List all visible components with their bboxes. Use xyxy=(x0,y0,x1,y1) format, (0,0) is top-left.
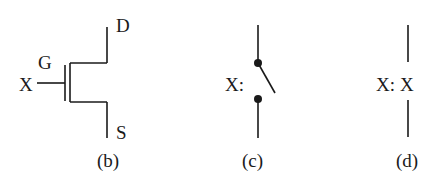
source-label: S xyxy=(116,122,127,143)
caption-d: (d) xyxy=(396,150,418,172)
switch-control-label: X: xyxy=(225,74,244,95)
caption-b: (b) xyxy=(97,150,119,172)
wire-value-label: X xyxy=(400,74,414,95)
panel-c-switch: X: (c) xyxy=(225,25,275,172)
panel-d-wire: X: X (d) xyxy=(376,25,418,172)
switch-models-diagram: D G X S (b) X: (c) X: X (d) xyxy=(0,0,436,185)
drain-label: D xyxy=(116,15,130,36)
gate-label: G xyxy=(38,52,52,73)
caption-c: (c) xyxy=(242,150,263,172)
panel-b-mosfet: D G X S (b) xyxy=(19,15,130,172)
input-label: X xyxy=(19,74,33,95)
switch-blade xyxy=(258,63,275,93)
wire-control-label: X: xyxy=(376,74,395,95)
